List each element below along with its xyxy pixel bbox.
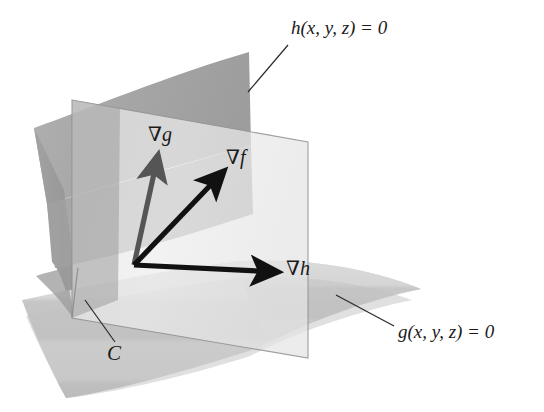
diagram-canvas bbox=[0, 0, 544, 412]
label-gradient-g: ∇g bbox=[148, 124, 172, 144]
label-gradient-h: ∇h bbox=[286, 258, 310, 278]
lagrange-multipliers-figure: h(x, y, z) = 0 g(x, y, z) = 0 ∇g ∇f ∇h C bbox=[0, 0, 544, 412]
leader-line-h bbox=[248, 45, 288, 92]
label-surface-g: g(x, y, z) = 0 bbox=[398, 322, 494, 341]
label-curve-c: C bbox=[107, 343, 121, 364]
plane-surface-overlap bbox=[72, 100, 120, 318]
label-surface-h: h(x, y, z) = 0 bbox=[291, 18, 387, 37]
label-gradient-f: ∇f bbox=[226, 147, 246, 167]
